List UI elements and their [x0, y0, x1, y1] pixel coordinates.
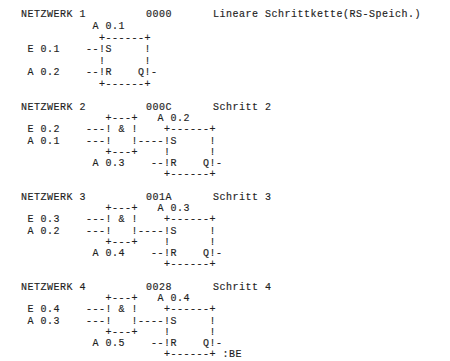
network-address: 001A [146, 192, 172, 203]
network-title: NETZWERK 3 [21, 192, 86, 203]
diagram-line: E 0.3 ---! & ! +------+ [21, 214, 216, 225]
network-comment: Schritt 4 [213, 282, 272, 293]
diagram-line: +------+ :BE [21, 349, 242, 360]
diagram-line: A 0.4 --!R Q!- [21, 248, 223, 259]
diagram-line: +---+ A 0.3 [21, 203, 190, 214]
network-comment: Schritt 3 [213, 192, 272, 203]
diagram-line: A 0.1 [21, 21, 125, 32]
diagram-line: ! ! [21, 56, 151, 67]
diagram-line: +------+ [21, 33, 151, 44]
diagram-line: +---+ ! ! [21, 327, 216, 338]
diagram-line: A 0.2 ---! !----!S ! [21, 226, 216, 237]
diagram-line: A 0.1 ---! !----!S ! [21, 136, 216, 147]
diagram-line: +------+ [21, 169, 216, 180]
diagram-line: +---+ ! ! [21, 147, 216, 158]
network-title: NETZWERK 1 [21, 9, 86, 20]
diagram-line: E 0.4 ---! & ! +------+ [21, 304, 216, 315]
diagram-line: +------+ [21, 79, 151, 90]
network-address: 0028 [146, 282, 172, 293]
fup-listing-page: NETZWERK 1 0000 Lineare Schrittkette(RS-… [0, 0, 450, 361]
diagram-line: +---+ A 0.2 [21, 113, 190, 124]
diagram-line: E 0.1 --!S ! [21, 44, 151, 55]
network-title: NETZWERK 2 [21, 102, 86, 113]
network-title: NETZWERK 4 [21, 282, 86, 293]
network-address: 000C [146, 102, 172, 113]
network-address: 0000 [146, 9, 172, 20]
network-comment: Lineare Schrittkette(RS-Speich.) [213, 9, 421, 20]
diagram-line: A 0.2 --!R Q!- [21, 67, 158, 78]
diagram-line: A 0.3 --!R Q!- [21, 158, 223, 169]
network-comment: Schritt 2 [213, 102, 272, 113]
diagram-line: +---+ A 0.4 [21, 293, 190, 304]
diagram-line: A 0.3 ---! !----!S ! [21, 316, 216, 327]
diagram-line: +---+ ! ! [21, 237, 216, 248]
diagram-line: E 0.2 ---! & ! +------+ [21, 124, 216, 135]
diagram-line: +------+ [21, 259, 216, 270]
diagram-line: A 0.5 --!R Q!- [21, 338, 223, 349]
